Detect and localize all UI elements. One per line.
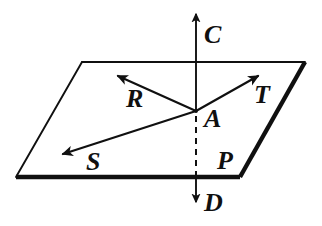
label-c: C — [204, 20, 222, 49]
geometry-figure: C D R S T A P — [0, 0, 322, 226]
label-a: A — [202, 104, 221, 133]
ray-s — [63, 111, 196, 154]
point-a-marker — [194, 109, 198, 113]
label-s: S — [86, 147, 100, 176]
rays-in-plane — [63, 76, 258, 154]
plane-edge-left — [16, 62, 82, 177]
plane-edge-right — [240, 62, 305, 177]
label-r: R — [125, 84, 143, 113]
label-d: D — [203, 188, 223, 217]
label-t: T — [254, 80, 271, 109]
figure-canvas: C D R S T A P — [0, 0, 322, 226]
label-p: P — [216, 146, 234, 175]
